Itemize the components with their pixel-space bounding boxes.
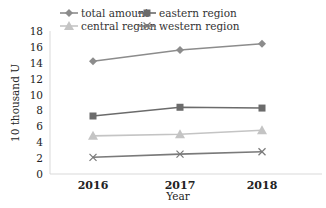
legend-item: eastern region xyxy=(138,7,237,19)
series-total-amount xyxy=(89,40,266,65)
diamond-marker-icon xyxy=(258,40,266,48)
y-tick-label: 2 xyxy=(36,152,43,164)
square-marker-icon xyxy=(90,113,97,120)
series-line xyxy=(93,44,262,61)
x-tick-label: 2018 xyxy=(247,179,278,192)
line-chart: total amounteastern regioncentral region… xyxy=(0,0,326,208)
y-tick-label: 18 xyxy=(30,25,43,37)
legend-label: eastern region xyxy=(159,7,237,19)
y-tick-label: 0 xyxy=(36,168,43,180)
legend-label: western region xyxy=(159,20,240,32)
y-tick-label: 12 xyxy=(30,73,43,85)
plot-area xyxy=(88,40,267,161)
y-tick-label: 4 xyxy=(36,136,43,148)
diamond-marker-icon xyxy=(89,57,97,65)
square-marker-icon xyxy=(259,105,266,112)
y-tick-label: 6 xyxy=(36,120,43,132)
series-western-region xyxy=(90,148,266,161)
diamond-marker-icon xyxy=(65,9,73,17)
y-tick-label: 16 xyxy=(30,41,44,53)
y-tick-label: 10 xyxy=(30,89,43,101)
diamond-marker-icon xyxy=(176,46,184,54)
square-marker-icon xyxy=(177,104,184,111)
y-tick-label: 8 xyxy=(36,104,43,116)
y-axis: 024681012141618 xyxy=(30,25,50,180)
square-marker-icon xyxy=(144,10,151,17)
x-axis-title: Year xyxy=(165,190,190,202)
chart-legend: total amounteastern regioncentral region… xyxy=(60,7,240,32)
y-tick-label: 14 xyxy=(30,57,44,69)
series-central-region xyxy=(88,125,267,140)
x-tick-label: 2016 xyxy=(78,179,109,192)
y-axis-title: 10 thousand U xyxy=(9,64,21,142)
legend-item: total amount xyxy=(60,7,150,19)
series-eastern-region xyxy=(90,104,266,120)
